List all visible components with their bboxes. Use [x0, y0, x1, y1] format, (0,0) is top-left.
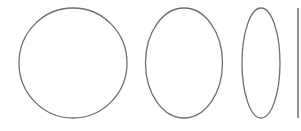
circle-shape [19, 8, 127, 118]
narrow-ellipse-shape [242, 8, 280, 118]
shape-sequence-diagram [0, 0, 301, 131]
wide-ellipse-shape [146, 8, 223, 118]
